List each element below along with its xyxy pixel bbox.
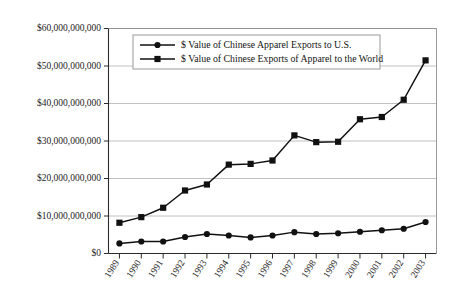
x-axis-tick-label: 1991 (146, 258, 165, 280)
data-point-marker (335, 230, 341, 236)
y-axis-tick-label: $40,000,000,000 (37, 98, 101, 108)
data-point-marker (422, 219, 428, 225)
legend-marker-circle (154, 42, 160, 48)
x-axis-tick-label: 1995 (234, 258, 253, 280)
data-point-marker (313, 139, 319, 145)
data-point-marker (291, 132, 297, 138)
legend-item-label: $ Value of Chinese Apparel Exports to U.… (181, 39, 351, 50)
data-point-marker (248, 234, 254, 240)
y-axis-tick-label: $10,000,000,000 (37, 211, 101, 221)
x-axis-tick-label: 1989 (103, 258, 122, 280)
data-point-marker (116, 240, 122, 246)
data-point-marker (182, 187, 188, 193)
data-point-marker (116, 220, 122, 226)
data-point-marker (138, 214, 144, 220)
data-point-marker (357, 116, 363, 122)
data-point-marker (357, 229, 363, 235)
x-axis-tick-label: 2000 (343, 258, 362, 280)
data-point-marker (291, 229, 297, 235)
series-2 (116, 57, 428, 226)
legend-item-label: $ Value of Chinese Exports of Apparel to… (181, 53, 383, 64)
data-point-marker (269, 157, 275, 163)
chart-legend: $ Value of Chinese Apparel Exports to U.… (133, 35, 383, 69)
y-axis-tick-label: $0 (92, 248, 102, 258)
data-point-marker (138, 238, 144, 244)
data-point-marker (401, 226, 407, 232)
x-axis-tick-label: 1992 (168, 258, 187, 280)
series-1 (116, 219, 428, 247)
data-point-marker (313, 231, 319, 237)
data-point-marker (335, 139, 341, 145)
x-axis-tick-label: 1990 (124, 258, 143, 280)
x-axis-tick-label: 1997 (278, 258, 297, 280)
data-point-marker (379, 114, 385, 120)
x-axis-tick-label: 1993 (190, 258, 209, 280)
data-point-marker (379, 227, 385, 233)
line-chart: $0$10,000,000,000$20,000,000,000$30,000,… (0, 0, 451, 307)
data-point-marker (204, 181, 210, 187)
x-axis-tick-label: 2001 (365, 258, 384, 280)
y-axis-tick-label: $50,000,000,000 (37, 61, 101, 71)
x-axis-tick-label: 1996 (256, 258, 275, 280)
data-point-marker (269, 232, 275, 238)
data-point-marker (401, 97, 407, 103)
legend-marker-square (154, 56, 160, 62)
data-point-marker (182, 234, 188, 240)
data-point-marker (248, 161, 254, 167)
data-point-marker (160, 205, 166, 211)
x-axis-tick-label: 1999 (321, 258, 340, 280)
y-axis-tick-label: $30,000,000,000 (37, 136, 101, 146)
data-point-marker (422, 57, 428, 63)
data-point-marker (160, 238, 166, 244)
series-line (119, 60, 425, 222)
chart-container: $0$10,000,000,000$20,000,000,000$30,000,… (0, 0, 451, 307)
x-axis-tick-label: 2002 (387, 258, 406, 280)
y-axis-tick-label: $60,000,000,000 (37, 23, 101, 33)
data-point-marker (204, 231, 210, 237)
x-axis-tick-label: 1998 (299, 258, 318, 280)
x-axis-tick-label: 1994 (212, 258, 231, 280)
x-axis-tick-label: 2003 (409, 258, 428, 280)
y-axis-tick-label: $20,000,000,000 (37, 173, 101, 183)
data-point-marker (226, 232, 232, 238)
data-point-marker (226, 162, 232, 168)
